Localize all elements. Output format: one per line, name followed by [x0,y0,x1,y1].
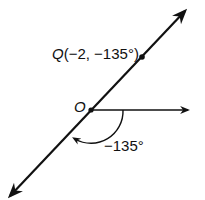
origin-dot [88,107,93,112]
line-through-origin [10,11,185,196]
origin-label: O [74,98,86,115]
angle-label: −135° [104,137,144,154]
point-q-dot [139,54,145,60]
point-q-label: Q(−2, −135°) [52,45,139,62]
polar-diagram: Q(−2, −135°) O −135° [0,0,205,200]
